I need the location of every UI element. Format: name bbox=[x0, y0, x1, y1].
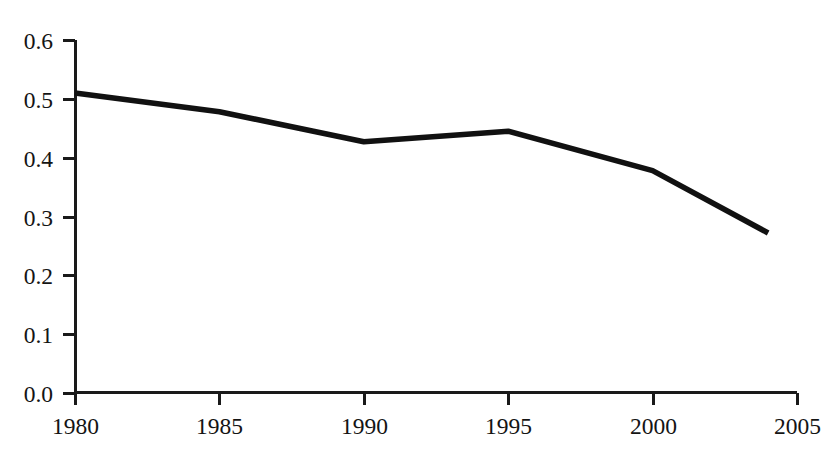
y-tick-label: 0.3 bbox=[24, 205, 53, 231]
y-tick-label: 0.0 bbox=[24, 381, 53, 407]
y-tick-label: 0.6 bbox=[24, 28, 54, 54]
y-tick-label: 0.4 bbox=[24, 146, 54, 172]
chart-plot-area: 0.00.10.20.30.40.50.6 198019851990199520… bbox=[0, 0, 828, 462]
x-tick-label: 1985 bbox=[196, 413, 243, 439]
y-tick-label: 0.1 bbox=[24, 322, 53, 348]
x-tick-label: 1980 bbox=[52, 413, 99, 439]
x-axis-tick-labels: 198019851990199520002005 bbox=[52, 413, 821, 439]
line-chart: 0.00.10.20.30.40.50.6 198019851990199520… bbox=[0, 0, 828, 462]
x-tick-label: 2000 bbox=[630, 413, 677, 439]
x-tick-label: 1995 bbox=[485, 413, 532, 439]
x-tick-label: 2005 bbox=[774, 413, 821, 439]
y-axis-ticks bbox=[63, 41, 75, 394]
data-series-line bbox=[75, 93, 768, 233]
x-axis-ticks bbox=[76, 393, 798, 405]
y-tick-label: 0.5 bbox=[24, 87, 53, 113]
x-tick-label: 1990 bbox=[341, 413, 388, 439]
y-tick-label: 0.2 bbox=[24, 263, 53, 289]
y-axis-tick-labels: 0.00.10.20.30.40.50.6 bbox=[24, 28, 54, 407]
